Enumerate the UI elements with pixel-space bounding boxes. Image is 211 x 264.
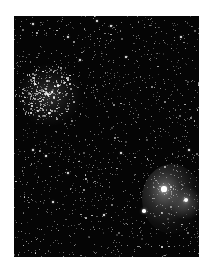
star: [159, 245, 160, 246]
star: [72, 94, 73, 95]
star: [73, 162, 74, 163]
star: [136, 36, 137, 37]
star: [48, 95, 49, 96]
star: [142, 80, 143, 81]
star: [80, 113, 82, 115]
star: [107, 75, 108, 76]
star: [52, 226, 53, 227]
star: [82, 52, 83, 53]
star: [79, 160, 80, 161]
star: [167, 157, 168, 158]
star: [55, 34, 56, 35]
star: [144, 27, 145, 28]
star: [36, 35, 37, 36]
star: [168, 198, 169, 199]
star: [168, 98, 169, 99]
star: [112, 90, 113, 91]
star: [196, 228, 197, 229]
star: [71, 118, 72, 119]
star: [41, 256, 42, 257]
star: [14, 153, 15, 154]
star: [57, 69, 58, 70]
star: [178, 155, 179, 156]
star: [65, 94, 67, 96]
star: [180, 160, 181, 161]
star: [118, 251, 119, 252]
star: [177, 24, 178, 25]
star: [195, 221, 196, 222]
star: [127, 159, 128, 160]
star: [139, 65, 140, 66]
star: [167, 69, 168, 70]
star: [83, 152, 85, 154]
star: [86, 116, 87, 117]
star: [138, 35, 139, 36]
star: [129, 104, 130, 105]
star: [45, 141, 46, 142]
star: [36, 130, 37, 131]
star: [161, 136, 162, 137]
star: [65, 123, 66, 124]
star: [192, 26, 193, 27]
star: [109, 159, 110, 160]
star: [24, 192, 25, 193]
star: [109, 186, 110, 187]
star: [116, 234, 118, 236]
star: [81, 207, 82, 208]
star: [143, 177, 144, 178]
star: [190, 189, 191, 190]
star: [23, 245, 24, 246]
star: [75, 244, 76, 245]
star: [78, 161, 79, 162]
star: [164, 194, 165, 195]
star: [61, 151, 62, 152]
star: [195, 68, 196, 69]
star: [137, 151, 138, 152]
star: [158, 27, 159, 28]
star: [49, 80, 51, 82]
star: [76, 176, 77, 177]
star: [73, 204, 74, 205]
star: [61, 76, 63, 78]
star: [130, 194, 131, 195]
star: [96, 105, 97, 106]
star: [89, 75, 90, 76]
star: [125, 56, 127, 58]
star: [16, 222, 17, 223]
star: [144, 24, 145, 25]
star: [46, 72, 47, 73]
star: [174, 23, 175, 24]
star: [173, 142, 174, 143]
star: [113, 60, 114, 61]
star: [176, 48, 177, 49]
star: [22, 61, 23, 62]
star: [94, 205, 95, 206]
star: [79, 59, 81, 61]
star: [80, 23, 81, 24]
star: [108, 197, 109, 198]
star: [72, 96, 74, 98]
star: [157, 166, 158, 167]
star: [35, 71, 36, 72]
star: [57, 224, 58, 225]
star: [97, 208, 98, 209]
star: [171, 61, 172, 62]
star: [32, 23, 35, 26]
star: [110, 129, 111, 130]
star: [124, 224, 125, 225]
star: [192, 80, 193, 81]
star: [178, 105, 179, 106]
star: [34, 156, 35, 157]
star: [188, 34, 189, 35]
star: [159, 135, 160, 136]
star: [97, 167, 98, 168]
star: [158, 128, 159, 129]
star: [95, 16, 96, 17]
star: [31, 194, 32, 195]
star: [108, 153, 109, 154]
star: [51, 212, 52, 213]
star: [88, 117, 89, 118]
star: [182, 58, 183, 59]
star: [192, 60, 193, 61]
star: [103, 128, 104, 129]
